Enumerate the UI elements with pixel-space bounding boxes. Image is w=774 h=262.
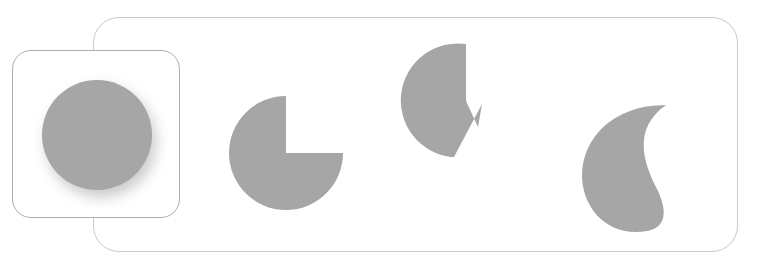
option-crescent[interactable] xyxy=(572,18,692,251)
pacman-quarter-icon xyxy=(229,18,349,253)
option-pacman-notched-spike[interactable] xyxy=(399,18,519,251)
crescent-icon xyxy=(572,18,692,253)
options-row xyxy=(94,18,737,251)
shape-sequence-canvas xyxy=(0,0,774,262)
options-container xyxy=(93,17,738,252)
full-circle-icon xyxy=(13,51,181,219)
selected-option-card-inner xyxy=(13,51,179,217)
option-pacman-quarter[interactable] xyxy=(229,18,349,251)
selected-option-card[interactable] xyxy=(12,50,180,218)
notched-pacman-icon xyxy=(399,18,519,253)
